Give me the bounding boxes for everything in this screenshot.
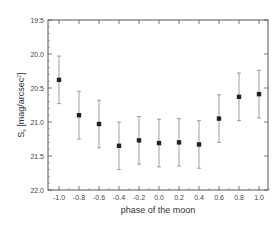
chart: 19.520.020.521.021.522.0 -1.0-0.8-0.6-0.… <box>0 0 279 226</box>
y-tick-label: 21.0 <box>30 119 44 126</box>
x-tick-label: -0.2 <box>133 194 145 201</box>
x-axis-title: phase of the moon <box>121 205 196 215</box>
data-point <box>197 142 201 146</box>
y-axis-title-unit: [mag/arcsec <box>16 77 26 129</box>
data-point <box>257 92 261 96</box>
y-tick-label: 22.0 <box>30 187 44 194</box>
data-point <box>77 113 81 117</box>
x-axis: -1.0-0.8-0.6-0.4-0.20.00.20.40.60.81.0 <box>53 20 269 201</box>
x-tick-label: -1.0 <box>53 194 65 201</box>
data-point <box>157 141 161 145</box>
data-point <box>57 78 61 82</box>
y-axis-title-close: ] <box>16 72 26 75</box>
x-tick-label: 0.4 <box>194 194 204 201</box>
x-tick-label: -0.4 <box>113 194 125 201</box>
data-point <box>177 140 181 144</box>
data-point <box>97 122 101 126</box>
x-tick-label: 0.2 <box>174 194 184 201</box>
y-tick-label: 20.5 <box>30 85 44 92</box>
data-point <box>137 138 141 142</box>
x-tick-label: -0.6 <box>93 194 105 201</box>
x-tick-label: 0.0 <box>154 194 164 201</box>
data-series <box>57 56 261 170</box>
x-tick-label: -0.8 <box>73 194 85 201</box>
plot-frame <box>48 20 268 190</box>
y-tick-label: 21.5 <box>30 153 44 160</box>
data-point <box>217 116 221 120</box>
y-tick-label: 20.0 <box>30 51 44 58</box>
x-tick-label: 0.6 <box>214 194 224 201</box>
y-axis: 19.520.020.521.021.522.0 <box>30 17 268 194</box>
data-point <box>117 144 121 148</box>
x-tick-label: 0.8 <box>234 194 244 201</box>
y-tick-label: 19.5 <box>30 17 44 24</box>
x-tick-label: 1.0 <box>254 194 264 201</box>
y-axis-title: Ss [mag/arcsec2] <box>16 72 27 137</box>
data-point <box>237 95 241 99</box>
